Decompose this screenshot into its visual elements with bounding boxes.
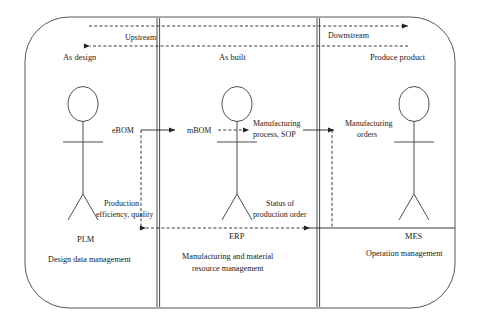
actor-mes-icon [394, 87, 434, 221]
lane-divider-erp-mes [317, 18, 320, 307]
system-name-plm: PLM [77, 235, 95, 244]
flow-mfg-orders-label-line2: orders [357, 130, 377, 139]
system-desc-erp-line1: Manufacturing and material [182, 252, 274, 261]
downstream-label: Downstream [328, 31, 370, 40]
flow-mfg-process-label-line2: process, SOP [253, 130, 296, 139]
system-name-mes: MES [405, 232, 423, 241]
lane-header-as-built: As built [219, 53, 246, 62]
flow-ebom-label: eBOM [112, 126, 134, 135]
system-desc-plm: Design data management [48, 255, 131, 264]
actor-plm-icon [63, 87, 103, 221]
system-desc-erp-line2: resource management [192, 264, 264, 273]
flow-status-label-line1: Status of [266, 199, 295, 208]
flow-mfg-process-label-line1: Manufacturing [253, 119, 301, 128]
system-desc-mes: Operation management [366, 249, 443, 258]
lane-header-produce-product: Produce product [370, 53, 426, 62]
system-name-erp: ERP [229, 232, 245, 241]
flow-mbom-label: mBOM [187, 126, 211, 135]
flow-status-label-line2: production order [253, 210, 307, 219]
flow-mfg-orders-label-line1: Manufacturing [345, 119, 393, 128]
flow-efficiency-label-line2: efficiency, quality [96, 210, 154, 219]
upstream-label: Upstream [125, 33, 157, 42]
lane-header-as-design: As design [63, 53, 97, 62]
lane-divider-plm-erp [157, 18, 160, 307]
flow-efficiency-label-line1: Production [104, 199, 139, 208]
actor-erp-icon [217, 87, 257, 221]
diagram-canvas: Upstream Downstream As design As built P… [0, 0, 478, 325]
